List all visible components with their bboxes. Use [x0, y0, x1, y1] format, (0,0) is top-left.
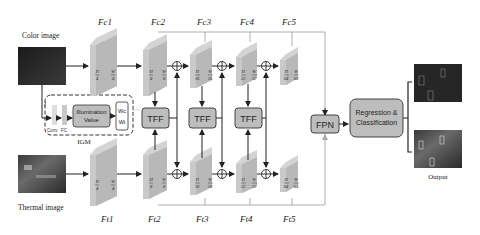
svg-text:64: 64 [294, 76, 299, 81]
svg-text:32: 32 [241, 76, 246, 81]
svg-text:64: 64 [294, 184, 299, 189]
svg-text:16: 16 [195, 76, 200, 81]
color-image [18, 47, 66, 85]
svg-text:W: W [208, 177, 213, 182]
fc4-label: Fc4 [239, 17, 254, 27]
svg-text:Classification: Classification [356, 119, 397, 126]
add-icon [218, 170, 227, 179]
svg-text:W: W [208, 69, 213, 74]
svg-text:TFF: TFF [240, 114, 257, 124]
svg-text:64: 64 [284, 184, 289, 189]
svg-text:32: 32 [252, 184, 257, 189]
svg-text:W: W [294, 69, 299, 74]
add-icon [262, 170, 271, 179]
svg-text:Illumination: Illumination [76, 109, 106, 115]
svg-text:TFF: TFF [147, 114, 164, 124]
svg-text:16: 16 [195, 184, 200, 189]
detection-head [350, 99, 403, 137]
svg-text:TFF: TFF [194, 114, 211, 124]
ft1-label: Ft1 [100, 214, 114, 224]
ft3-label: Ft3 [195, 214, 209, 224]
output-label: Output [428, 173, 448, 181]
thermal-image [18, 155, 66, 193]
color-image-label: Color image [22, 31, 60, 40]
svg-text:32: 32 [252, 76, 257, 81]
svg-text:Conv: Conv [47, 128, 58, 133]
fc3-label: Fc3 [196, 17, 211, 27]
fc-layer [62, 105, 67, 125]
weights-box [116, 102, 128, 130]
color-feature-1 [90, 28, 117, 96]
ft2-label: Ft2 [147, 214, 161, 224]
fc5-label: Fc5 [281, 17, 296, 27]
svg-text:FPN: FPN [316, 120, 334, 130]
svg-text:Wt: Wt [119, 119, 126, 125]
svg-text:W: W [294, 177, 299, 182]
add-icon [173, 62, 182, 71]
ft5-label: Ft5 [282, 214, 296, 224]
add-icon [262, 62, 271, 71]
igm-label: IGM [77, 138, 91, 146]
svg-text:32: 32 [241, 184, 246, 189]
svg-text:I: I [43, 101, 47, 107]
color-feature-2 [143, 34, 167, 96]
svg-text:Value: Value [84, 117, 100, 123]
add-icon [173, 170, 182, 179]
thermal-image-label: Thermal image [18, 203, 64, 212]
conv-layer [52, 105, 57, 125]
svg-text:16: 16 [208, 76, 213, 81]
svg-text:FC: FC [61, 128, 68, 133]
thermal-feature-1 [90, 138, 117, 206]
fc2-label: Fc2 [150, 17, 165, 27]
svg-text:16: 16 [208, 184, 213, 189]
architecture-diagram: Color image Thermal image I Conv FC Illu… [0, 0, 480, 235]
svg-text:Regression &: Regression & [355, 109, 397, 117]
svg-text:64: 64 [284, 76, 289, 81]
fc1-label: Fc1 [97, 17, 112, 27]
add-icon [218, 62, 227, 71]
output-color-image [414, 64, 462, 102]
ft4-label: Ft4 [239, 214, 253, 224]
svg-text:Wc: Wc [118, 108, 126, 114]
